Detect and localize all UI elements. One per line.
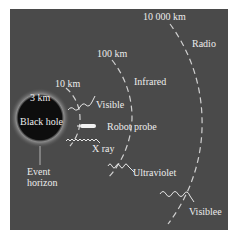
label-robot-probe: Robot probe [107,121,157,132]
arc-10000km [168,24,202,224]
visible-wave-near-icon [68,96,95,110]
label-10000km: 10 000 km [143,11,186,22]
label-ultraviolet: Ultraviolet [133,167,176,178]
ultraviolet-wave-icon [108,164,134,172]
label-visible-near: Visible [96,99,124,110]
visible-wave-far-icon [160,192,194,203]
label-10km: 10 km [55,78,80,89]
label-infrared: Infrared [134,76,166,87]
label-visible-far: Visiblee [189,206,222,217]
label-black-hole: Black hole [20,116,63,127]
label-radio: Radio [192,38,216,49]
arc-100km [108,60,132,178]
label-3km: 3 km [30,92,50,103]
waves [66,96,194,202]
label-xray: X ray [92,143,115,154]
label-event-horizon: Event horizon [27,166,67,188]
label-100km: 100 km [97,48,127,59]
